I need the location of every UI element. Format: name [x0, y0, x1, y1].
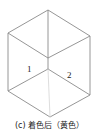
- cube-diagram: 1 2: [0, 0, 99, 118]
- edge-top-face-left: [8, 33, 48, 58]
- edge-bottom-right: [50, 95, 90, 117]
- edge-label-2: 2: [67, 71, 72, 80]
- edge-top-left: [8, 10, 48, 33]
- edge-bottom-left: [8, 91, 50, 117]
- edge-label-1: 1: [27, 65, 32, 74]
- figure-caption: (c) 着色后（黄色）: [0, 120, 99, 131]
- cube-wireframe: [0, 0, 99, 118]
- edge-top-face-right: [48, 36, 90, 58]
- edge-hidden-vertical: [48, 69, 50, 117]
- edge-top-right: [48, 10, 90, 36]
